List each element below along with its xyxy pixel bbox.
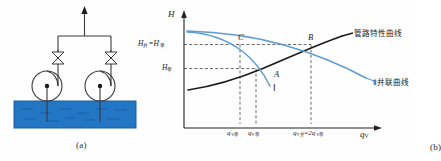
x3-sub2: V单 — [316, 132, 323, 137]
chart-svg — [160, 0, 409, 161]
valve-icon-1 — [52, 50, 64, 64]
x3-sub: V并 — [297, 132, 304, 137]
point-label-a: A — [274, 70, 279, 79]
y-axis-arrow-icon — [181, 10, 187, 18]
x-axis-title-sub: V — [365, 133, 369, 139]
panel-b-caption: (b) — [430, 142, 441, 152]
y1-sub-single: 单 — [160, 43, 165, 48]
point-label-c: C — [238, 33, 244, 42]
water-basin — [14, 101, 136, 128]
point-label-b: B — [308, 33, 313, 42]
panel-b-chart: H qV H并=H'单 H单 q'V单 qV单 qV并=2q'V单 C A B — [160, 0, 409, 161]
legend-parallel-curve: Ⅱ并联曲线 — [373, 76, 409, 87]
y-tick-label-parallel-head: H并=H'单 — [138, 40, 165, 49]
x2-sub: V单 — [252, 132, 259, 137]
legend-pipe-characteristic: 管路特性曲线 — [354, 27, 403, 38]
curve-single-pump — [187, 32, 270, 86]
x3-eq: =2q — [304, 129, 316, 137]
outlet-arrow-icon — [81, 6, 87, 14]
pump-volute-1 — [47, 71, 58, 86]
x-axis-arrow-icon — [374, 125, 382, 131]
x-axis-title: qV — [360, 130, 369, 140]
y2-sub: 单 — [167, 67, 172, 72]
y1-eq: =H — [148, 39, 158, 48]
y-axis-title: H — [168, 10, 175, 19]
valve-icon-2 — [105, 50, 117, 64]
pump-volute-2 — [100, 71, 111, 86]
legend-leader-pipe — [342, 33, 353, 36]
x-tick-label-q-single: qV单 — [248, 130, 259, 137]
pump-shaft-dot-1 — [45, 84, 49, 88]
y-tick-label-single-head: H单 — [162, 64, 172, 73]
pump-shaft-dot-2 — [98, 84, 102, 88]
x-tick-label-q-parallel: qV并=2q'V单 — [293, 130, 323, 137]
curve-marker-roman-one: Ⅰ — [273, 84, 276, 93]
panel-a-caption: (a) — [76, 140, 87, 150]
x-tick-label-q-single-prime: q'V单 — [227, 130, 238, 137]
x1-sub: V单 — [231, 132, 238, 137]
